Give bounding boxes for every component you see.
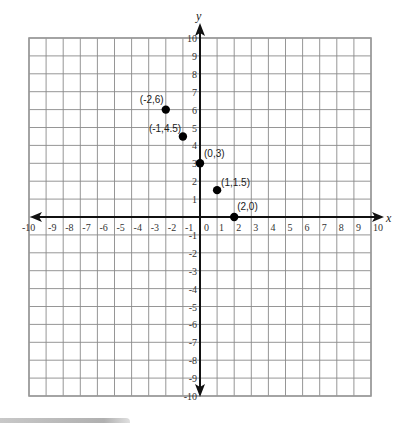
y-tick-label: -6 xyxy=(189,319,197,330)
x-tick-label: -9 xyxy=(48,222,56,233)
x-tick-label: 4 xyxy=(270,222,275,233)
data-point xyxy=(196,159,204,167)
x-tick-label: 5 xyxy=(288,222,293,233)
y-tick-label: -1 xyxy=(189,230,197,241)
y-tick-label: 6 xyxy=(192,105,197,116)
y-tick-label: 1 xyxy=(192,194,197,205)
y-tick-label: -9 xyxy=(189,373,197,384)
point-label: (2,0) xyxy=(237,201,258,212)
x-tick-label: 0 xyxy=(204,222,209,233)
x-tick-label: -5 xyxy=(117,222,125,233)
y-tick-label: 7 xyxy=(192,87,197,98)
y-tick-label: 5 xyxy=(192,123,197,134)
y-tick-label: 10 xyxy=(187,33,197,44)
x-tick-label: -3 xyxy=(151,222,159,233)
data-point xyxy=(162,105,170,113)
x-tick-label: -7 xyxy=(82,222,90,233)
y-tick-label: -5 xyxy=(189,302,197,313)
x-tick-labels: -10-9-8-7-6-5-4-3-2-1012345678910 xyxy=(22,222,383,233)
x-tick-label: 9 xyxy=(356,222,361,233)
y-tick-label: 9 xyxy=(192,51,197,62)
x-tick-label: 2 xyxy=(236,222,241,233)
y-axis-label: y xyxy=(195,9,202,23)
y-tick-label: -7 xyxy=(189,337,197,348)
x-tick-label: 3 xyxy=(253,222,258,233)
point-label: (1,1.5) xyxy=(221,177,250,188)
data-point xyxy=(230,213,238,221)
x-tick-label: 1 xyxy=(219,222,224,233)
data-point xyxy=(213,186,221,194)
x-tick-label: 7 xyxy=(322,222,327,233)
axes xyxy=(30,23,384,397)
x-tick-label: 10 xyxy=(373,222,383,233)
y-tick-label: -3 xyxy=(189,266,197,277)
point-label: (0,3) xyxy=(204,148,225,159)
bottom-scroll-bar[interactable] xyxy=(0,418,130,423)
y-tick-label: -4 xyxy=(189,284,197,295)
y-tick-label: -2 xyxy=(189,248,197,259)
coordinate-plane: -10-9-8-7-6-5-4-3-2-1012345678910 -10-9-… xyxy=(0,0,411,423)
y-tick-label: 2 xyxy=(192,176,197,187)
y-tick-label: 8 xyxy=(192,69,197,80)
x-axis-label: x xyxy=(385,211,392,225)
x-tick-label: -4 xyxy=(134,222,142,233)
x-tick-label: -8 xyxy=(65,222,73,233)
y-tick-label: -8 xyxy=(189,355,197,366)
x-tick-label: -10 xyxy=(22,222,35,233)
y-tick-label: 4 xyxy=(192,140,197,151)
y-tick-label: -10 xyxy=(184,391,197,402)
data-points: (-2,6)(-1,4.5)(0,3)(1,1.5)(2,0) xyxy=(140,94,258,222)
x-tick-label: 8 xyxy=(339,222,344,233)
x-tick-label: -2 xyxy=(168,222,176,233)
point-label: (-2,6) xyxy=(140,94,164,105)
x-tick-label: -6 xyxy=(99,222,107,233)
x-tick-label: 6 xyxy=(305,222,310,233)
point-label: (-1,4.5) xyxy=(149,123,181,134)
